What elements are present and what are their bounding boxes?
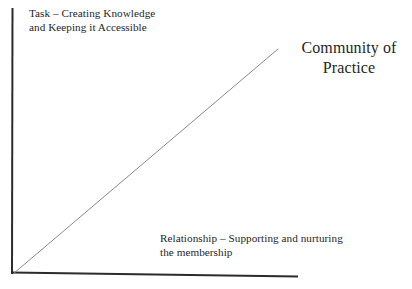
community-of-practice-diagram: Task – Creating Knowledge and Keeping it… bbox=[0, 0, 412, 289]
community-of-practice-label: Community of Practice bbox=[299, 38, 399, 77]
x-axis-line bbox=[11, 273, 298, 277]
y-axis-line bbox=[12, 8, 13, 274]
relationship-axis-label: Relationship – Supporting and nurturing … bbox=[160, 232, 343, 259]
task-axis-label: Task – Creating Knowledge and Keeping it… bbox=[29, 7, 155, 34]
